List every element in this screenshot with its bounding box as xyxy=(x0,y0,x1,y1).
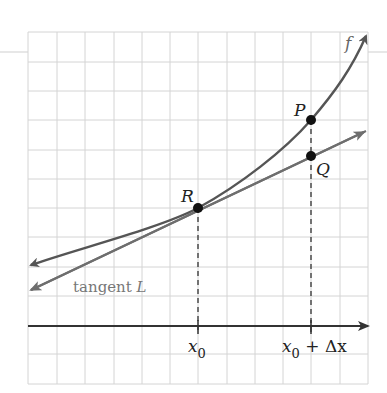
label-q: Q xyxy=(316,159,330,179)
diagram-canvas: R P Q f tangent L x0 x0 + Δx xyxy=(0,0,387,393)
label-tangent-var: L xyxy=(136,278,147,296)
point-r xyxy=(193,203,203,213)
label-tangent: tangent L xyxy=(73,278,147,296)
point-q xyxy=(306,151,316,161)
point-p xyxy=(306,115,316,125)
label-r: R xyxy=(180,186,194,206)
label-p: P xyxy=(293,100,306,120)
label-x0-plus-dx: x0 + Δx xyxy=(282,336,347,361)
label-tangent-word: tangent xyxy=(73,278,137,296)
label-f: f xyxy=(343,33,354,53)
label-x0: x0 xyxy=(188,336,206,361)
